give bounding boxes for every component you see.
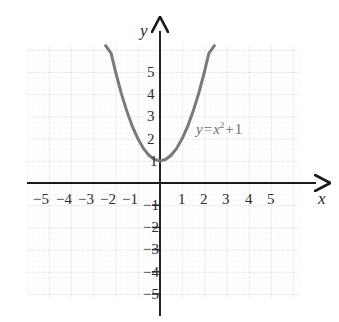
- x-tick-label--2: −2: [100, 192, 116, 207]
- x-tick-label--1: −1: [122, 192, 138, 207]
- x-tick-label--3: −3: [78, 192, 94, 207]
- equation-plus: +: [224, 121, 234, 137]
- equation-annotation: y=x2+1: [196, 122, 242, 137]
- equation-lhs: y: [196, 121, 203, 137]
- y-axis-label: y: [140, 22, 148, 39]
- equation-constant: 1: [235, 121, 243, 137]
- x-tick-label-3: 3: [222, 192, 230, 207]
- grid-major: [27, 45, 299, 298]
- y-tick-label--5: −5: [143, 287, 159, 302]
- y-tick-label--1: −1: [143, 198, 159, 213]
- equation-base: x: [213, 121, 220, 137]
- x-axis-label: x: [318, 190, 326, 207]
- y-tick-label-5: 5: [147, 65, 155, 80]
- graph-figure: y x −5 −4 −3 −2 −1 1 2 3 4 5 5 4 3 2 1 −…: [0, 0, 339, 322]
- x-tick-label-4: 4: [245, 192, 253, 207]
- x-tick-label-2: 2: [200, 192, 208, 207]
- y-tick-label--3: −3: [143, 242, 159, 257]
- y-tick-label-3: 3: [147, 109, 155, 124]
- y-tick-label-2: 2: [147, 132, 155, 147]
- y-tick-label-4: 4: [147, 87, 155, 102]
- equation-equals: =: [203, 121, 213, 137]
- x-tick-label--5: −5: [33, 192, 49, 207]
- x-tick-label--4: −4: [56, 192, 72, 207]
- y-tick-label--4: −4: [143, 265, 159, 280]
- coordinate-plane: [0, 0, 339, 322]
- x-tick-label-1: 1: [178, 192, 186, 207]
- x-tick-label-5: 5: [267, 192, 275, 207]
- y-tick-label--2: −2: [143, 220, 159, 235]
- y-tick-label-1: 1: [150, 154, 158, 169]
